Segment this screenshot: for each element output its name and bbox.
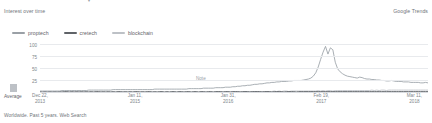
x-axis-tick: Dec 22,2013 [32, 93, 48, 105]
note-annotation: Note [196, 76, 206, 81]
x-tick-date: Jan 31, [221, 93, 236, 98]
y-axis-tick-label: 50 [32, 67, 37, 72]
x-tick-date: Jan 11, [128, 93, 143, 98]
gridline-100: 100 [40, 44, 428, 45]
gridline-50: 50 [40, 68, 428, 69]
legend-item-blockchain[interactable]: blockchain [112, 30, 153, 37]
x-tick-date: Mar 11, [407, 93, 422, 98]
google-trends-chart-card: ▾ Interest over time Google Trends propt… [0, 0, 432, 123]
x-tick-year: 2018 [407, 99, 422, 105]
plot-area: 100755025 [40, 44, 428, 92]
chart-footer: Worldwide. Past 5 years. Web Search [4, 112, 86, 119]
x-tick-date: Feb 19, [314, 93, 330, 98]
y-axis-tick-label: 75 [32, 55, 37, 60]
legend-item-cretech[interactable]: cretech [64, 30, 97, 37]
legend-item-proptech[interactable]: proptech [12, 30, 49, 37]
chart-legend: proptechcretechblockchain [12, 28, 153, 38]
y-axis-tick-label: 25 [32, 79, 37, 84]
legend-swatch-icon [64, 32, 77, 33]
y-axis-tick-label: 100 [29, 43, 37, 48]
x-tick-year: 2016 [221, 99, 236, 105]
section-title: Interest over time [4, 8, 45, 15]
google-trends-brand-label: Google Trends [393, 8, 428, 15]
legend-swatch-icon [112, 32, 125, 33]
chart-area: 100755025 Note [0, 42, 432, 94]
x-tick-date: Dec 22, [32, 93, 48, 98]
x-tick-year: 2015 [128, 99, 143, 105]
average-swatch [10, 84, 17, 92]
legend-label: cretech [80, 30, 97, 37]
x-axis-tick: Feb 19,2017 [314, 93, 330, 105]
legend-label: blockchain [128, 30, 153, 37]
legend-swatch-icon [12, 32, 25, 33]
x-axis-tick: Mar 11,2018 [407, 93, 422, 105]
average-label: Average [4, 94, 22, 100]
x-tick-year: 2013 [32, 99, 48, 105]
gridline-25: 25 [40, 80, 428, 81]
legend-label: proptech [28, 30, 49, 37]
x-axis-tick: Jan 11,2015 [128, 93, 143, 105]
x-tick-year: 2017 [314, 99, 330, 105]
clipped-top-glyph: ▾ [84, 0, 94, 3]
x-axis-tick-labels: Dec 22,2013Jan 11,2015Jan 31,2016Feb 19,… [40, 93, 428, 109]
x-axis-tick: Jan 31,2016 [221, 93, 236, 105]
gridline-75: 75 [40, 56, 428, 57]
